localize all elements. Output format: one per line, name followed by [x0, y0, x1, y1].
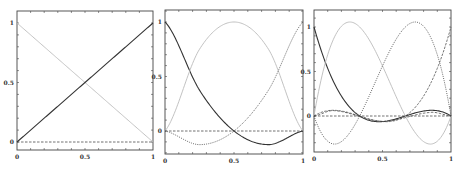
x-tick-label: 0.5 — [80, 153, 90, 160]
series-line — [165, 22, 303, 131]
series-line — [314, 27, 451, 122]
plot-panel-3: 00.5100.51 — [301, 10, 454, 162]
y-tick-label: 0.5 — [301, 68, 311, 75]
x-tick-label: 1 — [151, 153, 155, 160]
x-tick-label: 0 — [15, 153, 19, 160]
basis-function-figure: 00.5100.5100.5100.5100.5100.51 — [0, 0, 461, 170]
y-tick-label: 0.5 — [4, 79, 14, 86]
x-tick-label: 0 — [163, 157, 167, 164]
y-tick-label: 1 — [10, 19, 14, 26]
y-tick-label: 0 — [158, 127, 162, 134]
x-tick-label: 1 — [449, 155, 453, 162]
x-tick-label: 0.5 — [229, 157, 239, 164]
y-tick-label: 0.5 — [152, 73, 162, 80]
series-line — [165, 22, 303, 145]
x-tick-label: 1 — [301, 157, 305, 164]
plot-frame — [17, 11, 153, 150]
x-tick-label: 0 — [312, 155, 316, 162]
y-tick-label: 0 — [10, 138, 14, 145]
plot-frame — [314, 10, 451, 152]
y-tick-label: 0 — [307, 112, 311, 119]
plot-panel-1: 00.5100.51 — [4, 11, 156, 160]
plot-panel-2: 00.5100.51 — [152, 10, 306, 164]
y-tick-label: 1 — [307, 23, 311, 30]
series-line — [314, 27, 451, 122]
y-tick-label: 1 — [158, 18, 162, 25]
x-tick-label: 0.5 — [377, 155, 387, 162]
series-line — [165, 22, 303, 145]
